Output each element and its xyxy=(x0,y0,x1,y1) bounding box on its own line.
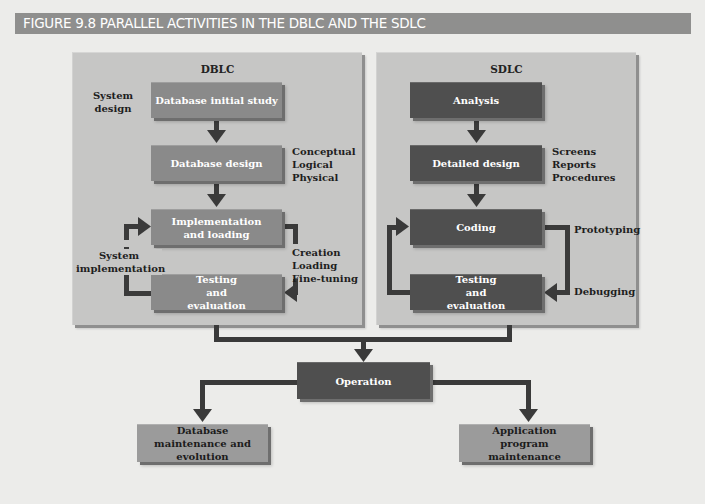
output-screens: Screens xyxy=(552,145,615,158)
sdlc-box-testing-evaluation: Testing and evaluation xyxy=(410,274,542,310)
label-design-levels: Conceptual Logical Physical xyxy=(292,145,356,184)
design-level-physical: Physical xyxy=(292,171,356,184)
operation-box: Operation xyxy=(297,362,430,399)
dblc-box-testing-evaluation: Testing and evaluation xyxy=(151,274,282,310)
sdlc-box-coding: Coding xyxy=(410,209,542,245)
design-level-conceptual: Conceptual xyxy=(292,145,356,158)
task-fine-tuning: Fine-tuning xyxy=(292,272,358,285)
output-procedures: Procedures xyxy=(552,171,615,184)
dblc-box-database-design: Database design xyxy=(151,145,282,181)
app-maintenance-box: Application program maintenance xyxy=(459,424,590,462)
label-system-design: System design xyxy=(88,89,138,115)
design-level-logical: Logical xyxy=(292,158,356,171)
system-design-text: System design xyxy=(93,90,133,114)
task-loading: Loading xyxy=(292,259,358,272)
dblc-box-initial-study: Database initial study xyxy=(151,82,282,118)
label-debugging: Debugging xyxy=(574,285,635,298)
label-design-outputs: Screens Reports Procedures xyxy=(552,145,615,184)
label-implementation-tasks: Creation Loading Fine-tuning xyxy=(292,246,358,285)
label-prototyping: Prototyping xyxy=(574,223,640,236)
db-maintenance-box: Database maintenance and evolution xyxy=(137,424,268,462)
sdlc-box-detailed-design: Detailed design xyxy=(410,145,542,181)
dblc-box-implementation-loading: Implementation and loading xyxy=(151,209,282,245)
label-system-implementation: System implementation xyxy=(76,249,162,275)
output-reports: Reports xyxy=(552,158,615,171)
sdlc-box-analysis: Analysis xyxy=(410,82,542,118)
task-creation: Creation xyxy=(292,246,358,259)
system-implementation-text: System implementation xyxy=(76,250,165,274)
